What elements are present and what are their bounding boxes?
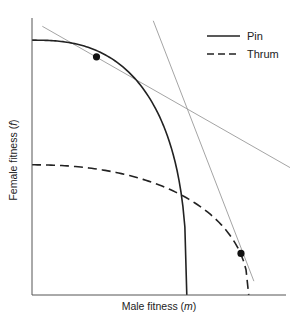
legend-thrum-label: Thrum bbox=[247, 48, 279, 60]
y-axis-label-text: Female fitness bbox=[7, 132, 19, 200]
x-axis-var: m bbox=[184, 300, 193, 312]
legend: Pin Thrum bbox=[207, 30, 279, 60]
thrum-optimum-point bbox=[237, 250, 244, 257]
legend-pin-label: Pin bbox=[247, 30, 263, 42]
trade-off-diagram: Pin Thrum Male fitness (m) Female fitnes… bbox=[0, 0, 300, 323]
y-axis-label: Female fitness (f) bbox=[7, 119, 19, 200]
pin-curve bbox=[32, 40, 187, 295]
y-axis-var: f bbox=[7, 122, 19, 126]
pin-optimum-point bbox=[93, 53, 100, 60]
x-axis-label: Male fitness (m) bbox=[122, 300, 197, 312]
x-axis-label-text: Male fitness bbox=[122, 300, 178, 312]
thrum-tangent-line bbox=[153, 21, 254, 281]
